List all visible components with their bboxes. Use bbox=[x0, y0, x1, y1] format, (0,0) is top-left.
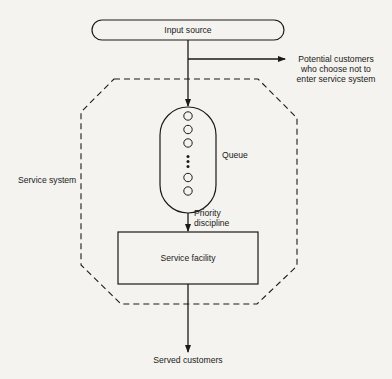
input-source-label: Input source bbox=[92, 25, 284, 35]
priority-label-line2: discipline bbox=[194, 218, 229, 228]
customer-icon bbox=[184, 187, 192, 195]
service-system-label: Service system bbox=[18, 175, 76, 185]
service-system-boundary bbox=[81, 79, 297, 304]
balk-label: Potential customers who choose not to en… bbox=[283, 54, 389, 84]
balk-label-line2: who choose not to bbox=[283, 64, 389, 74]
queue-customers bbox=[184, 112, 192, 195]
served-customers-label: Served customers bbox=[128, 355, 248, 365]
queueing-system-diagram: Input source Potential customers who cho… bbox=[0, 0, 392, 379]
priority-label-line1: Priority bbox=[194, 208, 229, 218]
ellipsis-dots bbox=[187, 155, 190, 168]
balk-label-line3: enter service system bbox=[283, 74, 389, 84]
service-facility-label: Service facility bbox=[118, 253, 258, 263]
customer-icon bbox=[184, 139, 192, 147]
queue-label: Queue bbox=[222, 150, 248, 160]
customer-icon bbox=[184, 125, 192, 133]
balk-label-line1: Potential customers bbox=[283, 54, 389, 64]
customer-icon bbox=[184, 112, 192, 120]
priority-discipline-label: Priority discipline bbox=[194, 208, 229, 228]
customer-icon bbox=[184, 173, 192, 181]
